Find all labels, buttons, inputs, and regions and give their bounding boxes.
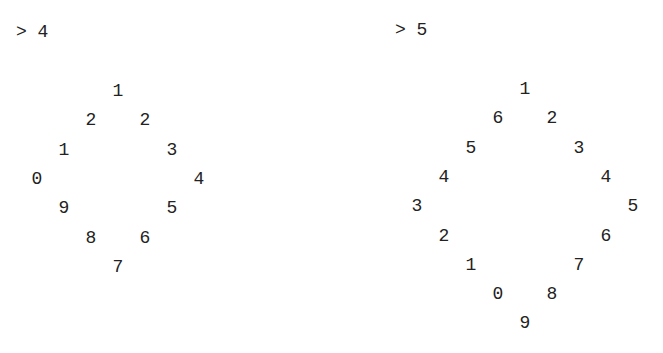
grid-digit: 2 [84, 110, 98, 130]
grid-digit: 2 [138, 110, 152, 130]
grid-digit: 4 [599, 167, 613, 187]
grid-digit: 6 [138, 228, 152, 248]
grid-digit: 4 [192, 169, 206, 189]
grid-digit: 2 [437, 226, 451, 246]
grid-digit: 5 [626, 196, 640, 216]
grid-digit: 6 [599, 226, 613, 246]
grid-digit: 5 [464, 138, 478, 158]
grid-digit: 8 [84, 228, 98, 248]
grid-digit: 3 [572, 138, 586, 158]
prompt-line: > 5 [395, 20, 427, 40]
grid-digit: 3 [165, 140, 179, 160]
grid-digit: 1 [111, 81, 125, 101]
grid-digit: 0 [491, 284, 505, 304]
prompt-line: > 4 [16, 22, 48, 42]
grid-digit: 8 [545, 284, 559, 304]
grid-digit: 1 [464, 255, 478, 275]
grid-digit: 6 [491, 108, 505, 128]
grid-digit: 9 [518, 313, 532, 333]
grid-digit: 0 [30, 169, 44, 189]
grid-digit: 1 [518, 79, 532, 99]
grid-digit: 7 [111, 257, 125, 277]
grid-digit: 9 [57, 198, 71, 218]
grid-digit: 1 [57, 140, 71, 160]
grid-digit: 3 [410, 196, 424, 216]
grid-digit: 4 [437, 167, 451, 187]
grid-digit: 2 [545, 108, 559, 128]
grid-digit: 7 [572, 255, 586, 275]
grid-digit: 5 [165, 198, 179, 218]
